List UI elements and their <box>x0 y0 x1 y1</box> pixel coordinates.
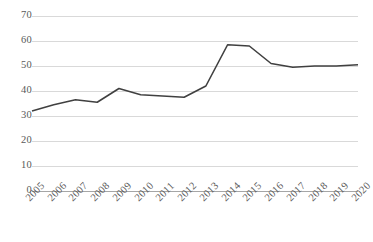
x-tick-label: 2005 <box>24 181 46 203</box>
x-tick-label: 2012 <box>176 181 198 203</box>
x-tick-label: 2010 <box>133 181 155 203</box>
x-tick-label: 2016 <box>263 181 285 203</box>
x-tick-label: 2014 <box>220 181 242 203</box>
x-tick-label: 2009 <box>111 181 133 203</box>
x-tick-label: 2019 <box>328 181 350 203</box>
x-tick-label: 2007 <box>67 181 89 203</box>
x-tick-label: 2013 <box>198 181 220 203</box>
x-tick-label: 2008 <box>89 181 111 203</box>
x-tick-label: 2017 <box>285 181 307 203</box>
x-tick-label: 2015 <box>241 181 263 203</box>
x-tick-label: 2020 <box>350 181 372 203</box>
x-tick-label: 2018 <box>307 181 329 203</box>
x-tick-label: 2011 <box>154 181 176 203</box>
x-tick-label: 2006 <box>46 181 68 203</box>
